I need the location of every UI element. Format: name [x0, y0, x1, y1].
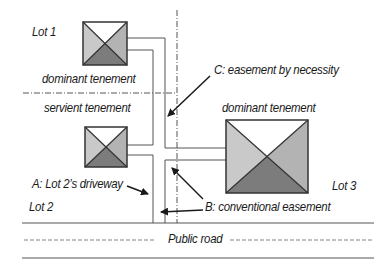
arrow-a [127, 186, 148, 194]
label-easement-b: B: conventional easement [205, 199, 330, 214]
diagram-canvas [0, 0, 392, 268]
arrow-b-lower [161, 210, 203, 212]
lot3-house-icon [226, 120, 308, 193]
label-driveway-a: A: Lot 2’s driveway [32, 176, 123, 191]
easement-diagram: Lot 1 dominant tenement servient tenemen… [0, 0, 392, 268]
label-dominant-tenement-lot1: dominant tenement [42, 71, 135, 86]
lot2-driveway-a [127, 145, 153, 223]
lot1-driveway [127, 38, 165, 145]
label-lot3: Lot 3 [332, 178, 356, 193]
label-lot2: Lot 2 [29, 199, 53, 214]
lot2-house-icon [85, 127, 127, 167]
label-servient-tenement: servient tenement [44, 100, 130, 115]
label-public-road: Public road [168, 231, 222, 246]
arrow-c [168, 76, 210, 116]
label-dominant-tenement-lot3: dominant tenement [222, 100, 315, 115]
lot1-house-icon [83, 22, 127, 65]
label-easement-c: C: easement by necessity [214, 62, 339, 77]
label-lot1: Lot 1 [32, 24, 56, 39]
